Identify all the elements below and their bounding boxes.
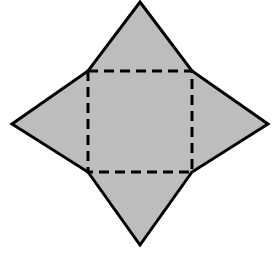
figure-canvas — [0, 0, 280, 259]
star-figure-svg — [0, 0, 280, 259]
